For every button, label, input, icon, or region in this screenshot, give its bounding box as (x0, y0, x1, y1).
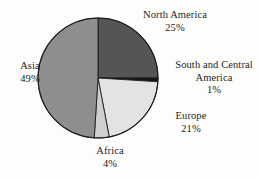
pie-label-europe: Europe 21% (160, 110, 222, 135)
pie-label-south-and-central-america-name-1: South and Central (168, 59, 259, 72)
pie-label-north-america: North America 25% (131, 9, 219, 34)
pie-label-europe-name: Europe (160, 110, 222, 123)
pie-label-north-america-value: 25% (131, 22, 219, 35)
pie-label-africa-name: Africa (82, 145, 138, 158)
pie-slices-group (38, 18, 158, 138)
pie-label-south-and-central-america-value: 1% (168, 84, 259, 97)
pie-label-south-and-central-america: South and Central America 1% (168, 59, 259, 97)
pie-label-africa-value: 4% (82, 158, 138, 171)
pie-label-africa: Africa 4% (82, 145, 138, 170)
pie-label-south-and-central-america-name-2: America (168, 72, 259, 85)
pie-label-asia-value: 49% (5, 73, 55, 86)
pie-label-north-america-name: North America (131, 9, 219, 22)
pie-chart: North America 25% South and Central Amer… (0, 0, 259, 178)
pie-label-asia: Asia 49% (5, 60, 55, 85)
pie-label-asia-name: Asia (5, 60, 55, 73)
pie-label-europe-value: 21% (160, 123, 222, 136)
